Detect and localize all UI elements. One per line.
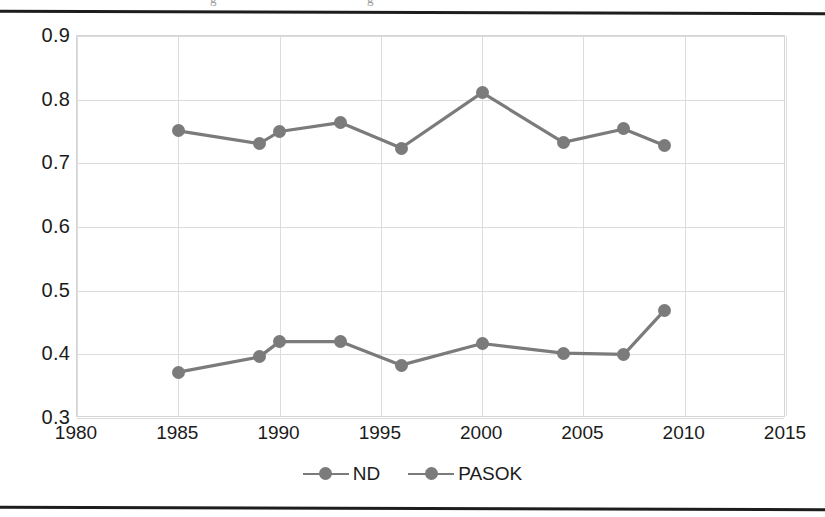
y-tick-label: 0.7 [8, 151, 70, 174]
data-point-nd [476, 86, 489, 99]
data-point-nd [557, 136, 570, 149]
series-paths [77, 36, 786, 418]
y-tick-label: 0.4 [8, 342, 70, 365]
data-point-nd [334, 116, 347, 129]
data-point-pasok [334, 335, 347, 348]
legend-label: PASOK [458, 463, 522, 484]
legend-item-pasok[interactable]: PASOK [408, 462, 522, 485]
ghost-fragment-1: g [210, 0, 217, 7]
series-line-pasok [178, 310, 664, 372]
x-tick-label: 2005 [561, 422, 603, 444]
y-axis: 0.90.80.70.60.50.40.3 [0, 35, 70, 417]
x-tick-label: 2000 [460, 422, 502, 444]
legend-marker-icon [408, 467, 454, 481]
data-point-nd [395, 142, 408, 155]
scan-ghost-caption: g g [0, 0, 825, 9]
data-point-nd [253, 137, 266, 150]
gridline-vertical [786, 36, 787, 416]
legend-item-nd[interactable]: ND [303, 462, 380, 485]
x-tick-label: 1980 [55, 422, 97, 444]
x-tick-label: 1990 [257, 422, 299, 444]
x-axis: 19801985199019952000200520102015 [76, 422, 785, 452]
series-layer [77, 36, 786, 418]
chart-legend: NDPASOK [0, 462, 825, 485]
page-divider-bottom [0, 506, 825, 511]
y-tick-label: 0.6 [8, 215, 70, 238]
data-point-nd [658, 139, 671, 152]
y-tick-label: 0.8 [8, 87, 70, 110]
y-tick-label: 0.5 [8, 278, 70, 301]
data-point-pasok [172, 366, 185, 379]
x-tick-label: 2010 [663, 422, 705, 444]
data-point-nd [273, 125, 286, 138]
x-tick-label: 2015 [764, 422, 806, 444]
gridline-horizontal [77, 418, 784, 419]
data-point-pasok [557, 347, 570, 360]
data-point-pasok [476, 337, 489, 350]
ghost-fragment-2: g [367, 0, 374, 7]
data-point-pasok [395, 359, 408, 372]
legend-marker-icon [303, 467, 349, 481]
series-line-nd [178, 93, 664, 148]
y-tick-label: 0.9 [8, 24, 70, 47]
plot-area [76, 35, 785, 417]
legend-label: ND [353, 463, 380, 484]
data-point-pasok [658, 304, 671, 317]
x-tick-label: 1995 [359, 422, 401, 444]
line-chart-figure: 0.90.80.70.60.50.40.3 198019851990199520… [0, 14, 825, 504]
x-tick-label: 1985 [156, 422, 198, 444]
